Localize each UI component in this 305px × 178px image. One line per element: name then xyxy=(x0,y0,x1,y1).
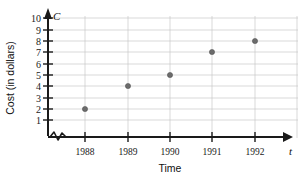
y-tick-label-7: 7 xyxy=(36,47,41,58)
x-tick-label-1990: 1990 xyxy=(161,147,180,157)
y-axis-variable-symbol: C xyxy=(53,10,61,22)
horizontal-gridlines xyxy=(48,18,298,120)
y-tick-labels: 10 9 8 7 6 5 4 3 2 1 xyxy=(31,13,41,126)
data-point-1989 xyxy=(125,83,130,88)
chart-svg: 10 9 8 7 6 5 4 3 2 1 1988 1989 1990 1991… xyxy=(0,0,305,178)
data-point-1990 xyxy=(167,72,172,77)
y-axis-title: Cost (in dollars) xyxy=(4,41,16,115)
y-tick-label-1: 1 xyxy=(36,115,41,126)
y-tick-label-6: 6 xyxy=(36,59,41,70)
y-tick-label-8: 8 xyxy=(36,36,41,47)
data-point-1991 xyxy=(209,49,214,54)
x-tick-label-1991: 1991 xyxy=(203,147,222,157)
x-tick-label-1992: 1992 xyxy=(246,147,265,157)
y-tick-label-5: 5 xyxy=(36,70,41,81)
data-point-1992 xyxy=(252,38,257,43)
y-axis xyxy=(44,8,52,136)
y-tick-label-3: 3 xyxy=(36,93,41,104)
x-axis-arrowhead xyxy=(283,132,293,142)
y-tick-label-4: 4 xyxy=(36,81,41,92)
x-axis-title: Time xyxy=(159,162,182,174)
x-tick-label-1988: 1988 xyxy=(76,147,95,157)
cost-vs-time-scatter-chart: 10 9 8 7 6 5 4 3 2 1 1988 1989 1990 1991… xyxy=(0,0,305,178)
data-point-1988 xyxy=(82,106,87,111)
y-tick-label-10: 10 xyxy=(31,13,41,24)
x-axis-variable-symbol: t xyxy=(289,145,293,157)
x-tick-label-1989: 1989 xyxy=(119,147,138,157)
x-tick-labels: 1988 1989 1990 1991 1992 xyxy=(76,147,265,157)
y-tick-label-2: 2 xyxy=(36,104,41,115)
y-tick-label-9: 9 xyxy=(36,25,41,36)
